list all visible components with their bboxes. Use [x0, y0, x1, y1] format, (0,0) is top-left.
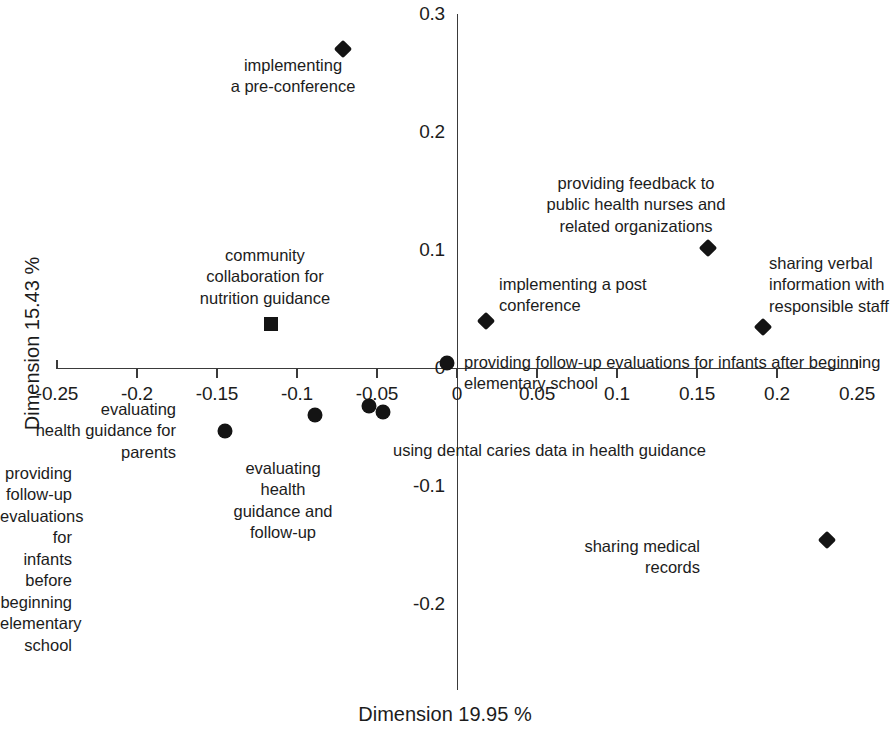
- y-axis-tick-label: 0.3: [385, 3, 445, 25]
- y-axis-tick-label: 0.2: [385, 121, 445, 143]
- y-axis-tick-label: -0.2: [385, 593, 445, 615]
- data-point-marker: [264, 317, 278, 331]
- data-point-label: sharing verbal information with responsi…: [769, 253, 889, 317]
- plot-area: -0.25-0.2-0.15-0.1-0.0500.050.10.150.20.…: [0, 0, 890, 737]
- data-point-marker: [440, 356, 455, 371]
- data-point-marker: [307, 408, 322, 423]
- data-point-marker: [362, 398, 377, 413]
- x-axis-tick: [376, 369, 377, 378]
- x-axis-tick-label: -0.15: [196, 383, 238, 405]
- data-point-label: using dental caries data in health guida…: [393, 440, 706, 461]
- data-point-label: implementing a pre-conference: [231, 55, 356, 98]
- data-point-marker: [753, 317, 771, 335]
- data-point-label: providing follow-up evaluations for infa…: [464, 352, 880, 395]
- data-point-label: implementing a post conference: [499, 274, 647, 317]
- y-axis-line: [457, 14, 458, 690]
- data-point-marker: [218, 423, 233, 438]
- correspondence-analysis-scatter-figure: -0.25-0.2-0.15-0.1-0.0500.050.10.150.20.…: [0, 0, 890, 737]
- y-axis-tick-label: 0: [385, 357, 445, 379]
- data-point-label: providing feedback to public health nurs…: [547, 173, 726, 237]
- y-axis-title: Dimension 15.43 %: [21, 219, 44, 469]
- x-axis-tick: [136, 369, 137, 378]
- x-axis-tick: [456, 369, 457, 378]
- data-point-marker: [477, 312, 495, 330]
- x-axis-tick: [56, 360, 57, 369]
- y-axis-tick-label: 0.1: [385, 239, 445, 261]
- x-axis-tick: [216, 369, 217, 378]
- x-axis-title: Dimension 19.95 %: [0, 703, 890, 726]
- x-axis-tick: [296, 369, 297, 378]
- data-point-marker: [817, 531, 835, 549]
- x-axis-tick-label: -0.1: [281, 383, 313, 405]
- y-axis-tick-label: -0.1: [385, 475, 445, 497]
- data-point-label: community collaboration for nutrition gu…: [200, 245, 330, 309]
- data-point-label: sharing medical records: [0, 536, 700, 579]
- data-point-label: evaluating health guidance and follow-up: [233, 458, 332, 544]
- data-point-marker: [376, 404, 391, 419]
- data-point-marker: [699, 238, 717, 256]
- x-axis-tick-label: 0: [452, 383, 462, 405]
